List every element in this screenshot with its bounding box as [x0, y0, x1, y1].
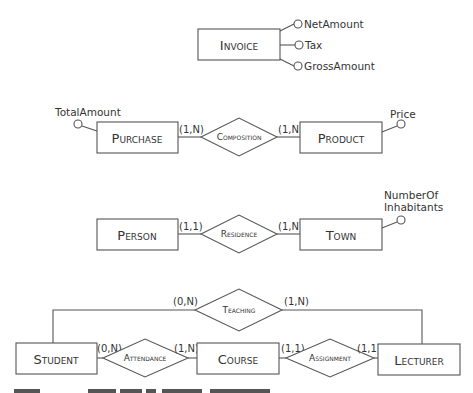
purchase-product-group: TotalAmount Purchase (1,N) Composition (… [54, 106, 416, 156]
attribute-inhabitants-icon [397, 216, 405, 224]
attribute-inhabitants-line1: NumberOf [384, 189, 438, 201]
entity-person-label: Person [117, 228, 156, 243]
attribute-grossamount: GrossAmount [304, 60, 375, 72]
relationship-assignment-label: Assignment [309, 353, 351, 363]
entity-lecturer-label: Lecturer [394, 353, 444, 368]
attribute-price: Price [390, 108, 416, 120]
attribute-grossamount-icon [294, 62, 302, 70]
entity-town-label: Town [325, 228, 357, 243]
cardinality-assignment-lecturer: (1,1) [357, 343, 381, 354]
cardinality-teaching-lecturer: (1,N) [284, 296, 309, 307]
invoice-group: NetAmount Tax GrossAmount Invoice [198, 18, 375, 72]
attribute-tax-icon [295, 41, 303, 49]
er-diagram: NetAmount Tax GrossAmount Invoice TotalA… [0, 0, 473, 393]
caption-partial [14, 389, 270, 393]
cardinality-attendance-course: (1,N) [174, 343, 199, 354]
entity-invoice-label: Invoice [220, 38, 259, 53]
relationship-attendance-label: Attendance [124, 353, 167, 363]
entity-course-label: Course [218, 352, 259, 367]
cardinality-town: (1,N) [278, 221, 303, 232]
cardinality-teaching-student: (0,N) [173, 296, 198, 307]
entity-product-label: Product [318, 131, 365, 146]
person-town-group: Person (1,1) Residence (1,N) Town Number… [97, 189, 443, 253]
attribute-totalamount: TotalAmount [54, 106, 121, 118]
cardinality-product: (1,N) [278, 124, 303, 135]
entity-purchase-label: Purchase [112, 131, 163, 146]
university-group: (0,N) (1,N) Teaching Student (0,N) Atten… [16, 289, 460, 377]
attribute-tax: Tax [304, 39, 322, 51]
relationship-composition-label: Composition [217, 132, 262, 142]
attribute-inhabitants-line2: Inhabitants [384, 201, 443, 213]
attribute-netamount: NetAmount [304, 18, 364, 30]
cardinality-person: (1,1) [179, 221, 203, 232]
attribute-netamount-icon [294, 20, 302, 28]
relationship-residence-label: Residence [221, 229, 258, 239]
attribute-price-icon [397, 120, 405, 128]
attribute-totalamount-icon [74, 120, 82, 128]
relationship-teaching-label: Teaching [222, 305, 256, 315]
entity-student-label: Student [33, 352, 79, 367]
cardinality-purchase: (1,N) [179, 124, 204, 135]
